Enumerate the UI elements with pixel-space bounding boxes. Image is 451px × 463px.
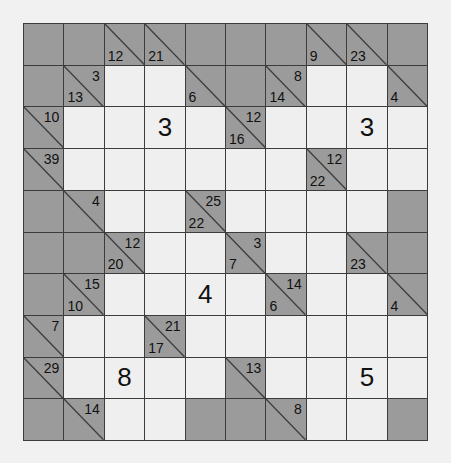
- clue-cell: 4: [388, 66, 427, 107]
- entry-cell[interactable]: [266, 107, 305, 148]
- clue-cell: 13: [226, 358, 265, 399]
- entry-cell[interactable]: [347, 274, 386, 315]
- entry-cell[interactable]: [145, 274, 184, 315]
- entry-cell[interactable]: [266, 316, 305, 357]
- entry-cell[interactable]: 5: [347, 358, 386, 399]
- down-clue-sum: 23: [350, 48, 366, 64]
- entry-cell[interactable]: [388, 107, 427, 148]
- entry-cell[interactable]: [64, 358, 103, 399]
- cell-value: [105, 149, 144, 190]
- entry-cell[interactable]: [388, 149, 427, 190]
- block-cell: [64, 233, 103, 274]
- entry-cell[interactable]: [186, 358, 225, 399]
- entry-cell[interactable]: [226, 149, 265, 190]
- entry-cell[interactable]: [64, 149, 103, 190]
- entry-cell[interactable]: 3: [145, 107, 184, 148]
- entry-cell[interactable]: [266, 358, 305, 399]
- entry-cell[interactable]: [186, 233, 225, 274]
- cell-value: [64, 358, 103, 399]
- entry-cell[interactable]: [347, 316, 386, 357]
- kakuro-board: 1221923313681441031216339122242522122037…: [23, 23, 428, 441]
- entry-cell[interactable]: 8: [105, 358, 144, 399]
- cell-value: [226, 316, 265, 357]
- across-clue-sum: 12: [327, 151, 343, 167]
- entry-cell[interactable]: [105, 399, 144, 440]
- entry-cell[interactable]: [266, 233, 305, 274]
- entry-cell[interactable]: [64, 316, 103, 357]
- cell-value: [347, 66, 386, 107]
- entry-cell[interactable]: [388, 358, 427, 399]
- entry-cell[interactable]: [145, 191, 184, 232]
- across-clue-sum: 10: [44, 109, 60, 125]
- entry-cell[interactable]: [347, 399, 386, 440]
- across-clue-sum: 12: [246, 109, 262, 125]
- down-clue-sum: 9: [310, 48, 318, 64]
- entry-cell[interactable]: [105, 316, 144, 357]
- entry-cell[interactable]: [186, 149, 225, 190]
- cell-value: [347, 191, 386, 232]
- entry-cell[interactable]: [307, 66, 346, 107]
- entry-cell[interactable]: [145, 399, 184, 440]
- across-clue-sum: 21: [165, 318, 181, 334]
- block-cell: [64, 24, 103, 65]
- entry-cell[interactable]: [388, 316, 427, 357]
- clue-cell: 8: [266, 399, 305, 440]
- down-clue-sum: 10: [67, 298, 83, 314]
- cell-value: [347, 399, 386, 440]
- down-clue-sum: 6: [189, 89, 197, 105]
- entry-cell[interactable]: [105, 149, 144, 190]
- down-clue-sum: 12: [108, 48, 124, 64]
- entry-cell[interactable]: [307, 233, 346, 274]
- entry-cell[interactable]: [347, 191, 386, 232]
- block-cell: [24, 66, 63, 107]
- down-clue-sum: 14: [269, 89, 285, 105]
- entry-cell[interactable]: [105, 191, 144, 232]
- clue-cell: 37: [226, 233, 265, 274]
- entry-cell[interactable]: [266, 191, 305, 232]
- across-clue-sum: 4: [92, 193, 100, 209]
- entry-cell[interactable]: 3: [347, 107, 386, 148]
- entry-cell[interactable]: [145, 358, 184, 399]
- entry-cell[interactable]: [145, 149, 184, 190]
- cell-value: [145, 191, 184, 232]
- entry-cell[interactable]: [307, 399, 346, 440]
- entry-cell[interactable]: [226, 274, 265, 315]
- entry-cell[interactable]: [105, 274, 144, 315]
- entry-cell[interactable]: [307, 316, 346, 357]
- entry-cell[interactable]: [307, 274, 346, 315]
- entry-cell[interactable]: [347, 149, 386, 190]
- down-clue-sum: 22: [310, 173, 326, 189]
- entry-cell[interactable]: [307, 191, 346, 232]
- entry-cell[interactable]: [145, 66, 184, 107]
- across-clue-sum: 8: [294, 68, 302, 84]
- cell-value: [266, 107, 305, 148]
- cell-value: [145, 358, 184, 399]
- cell-value: [64, 107, 103, 148]
- entry-cell[interactable]: [307, 107, 346, 148]
- clue-cell: 1216: [226, 107, 265, 148]
- cell-value: [105, 316, 144, 357]
- entry-cell[interactable]: [307, 358, 346, 399]
- clue-cell: 14: [64, 399, 103, 440]
- entry-cell[interactable]: [105, 66, 144, 107]
- cell-value: [105, 191, 144, 232]
- entry-cell[interactable]: [226, 191, 265, 232]
- entry-cell[interactable]: 4: [186, 274, 225, 315]
- entry-cell[interactable]: [347, 66, 386, 107]
- entry-cell[interactable]: [186, 316, 225, 357]
- entry-cell[interactable]: [64, 107, 103, 148]
- cell-value: 4: [186, 274, 225, 315]
- cell-value: [307, 358, 346, 399]
- block-cell: [24, 191, 63, 232]
- clue-cell: 2522: [186, 191, 225, 232]
- down-clue-sum: 4: [391, 89, 399, 105]
- block-cell: [24, 399, 63, 440]
- entry-cell[interactable]: [186, 107, 225, 148]
- entry-cell[interactable]: [226, 316, 265, 357]
- entry-cell[interactable]: [145, 233, 184, 274]
- entry-cell[interactable]: [266, 149, 305, 190]
- entry-cell[interactable]: [105, 107, 144, 148]
- across-clue-sum: 15: [84, 276, 100, 292]
- block-cell: [226, 399, 265, 440]
- cell-value: [347, 149, 386, 190]
